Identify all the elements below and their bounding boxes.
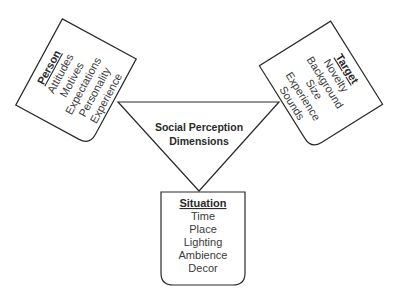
situation-item: Ambience	[179, 249, 228, 261]
situation-title: Situation	[179, 197, 226, 209]
situation-item: Lighting	[184, 236, 223, 248]
center-triangle: Social Perception Dimensions	[118, 102, 279, 191]
center-label-line1: Social Perception	[155, 121, 243, 133]
situation-item: Place	[189, 223, 217, 235]
situation-box: Situation Time Place Lighting Ambience D…	[161, 192, 245, 285]
situation-item: Decor	[188, 262, 218, 274]
person-box: Person Attitudes Motives Expectations Pe…	[16, 19, 137, 145]
situation-item: Time	[191, 210, 215, 222]
center-label-line2: Dimensions	[169, 135, 229, 147]
target-box: Target Novelty Background Size Experienc…	[259, 21, 382, 149]
social-perception-diagram: Social Perception Dimensions Person Atti…	[0, 0, 399, 300]
